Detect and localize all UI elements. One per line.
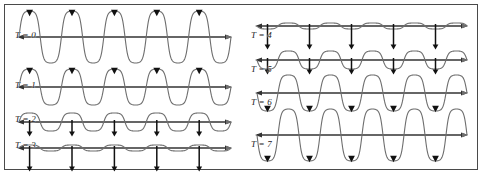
arrowhead-triangle bbox=[196, 166, 202, 171]
wave-plot bbox=[5, 5, 243, 171]
velocity-arrow bbox=[69, 146, 75, 171]
figure-frame: T = 0T = 1T = 2T = 3 T = 4T = 5T = 6T = … bbox=[4, 4, 478, 170]
row-label-5: T = 5 bbox=[251, 65, 272, 74]
row-label-3: T = 3 bbox=[15, 141, 36, 150]
wave-row: T = 3 bbox=[5, 5, 243, 171]
velocity-arrow bbox=[112, 146, 118, 171]
panel-right-column: T = 4T = 5T = 6T = 7 bbox=[243, 5, 479, 171]
wave-row: T = 7 bbox=[243, 5, 479, 171]
row-label-7: T = 7 bbox=[251, 140, 272, 149]
row-label-6: T = 6 bbox=[251, 98, 272, 107]
row-label-4: T = 4 bbox=[251, 31, 272, 40]
velocity-arrow bbox=[196, 146, 202, 171]
arrowhead-triangle bbox=[154, 166, 160, 171]
standing-wave-figure: T = 0T = 1T = 2T = 3 T = 4T = 5T = 6T = … bbox=[0, 0, 482, 174]
row-label-1: T = 1 bbox=[15, 81, 36, 90]
arrowhead-triangle bbox=[27, 166, 33, 171]
panel-left-column: T = 0T = 1T = 2T = 3 bbox=[5, 5, 243, 171]
wave-plot bbox=[243, 5, 479, 171]
velocity-arrow bbox=[154, 146, 160, 171]
row-label-0: T = 0 bbox=[15, 31, 36, 40]
arrowhead-triangle bbox=[69, 166, 75, 171]
arrowhead-triangle bbox=[112, 166, 118, 171]
axis-arrowhead-left bbox=[255, 133, 262, 138]
row-label-2: T = 2 bbox=[15, 115, 36, 124]
